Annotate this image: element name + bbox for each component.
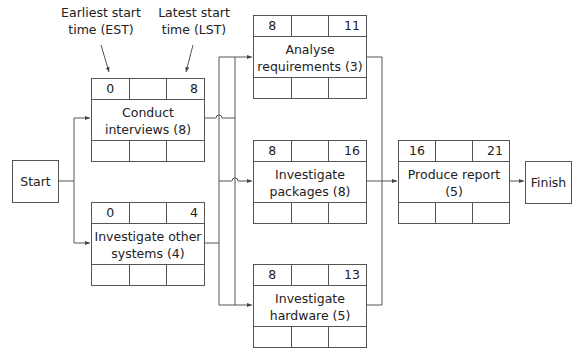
empty-cell (328, 327, 366, 347)
empty-cell (291, 203, 329, 223)
empty-cell (472, 203, 509, 223)
est-value: 0 (92, 203, 129, 223)
duration-cell (435, 141, 472, 161)
empty-cell (435, 203, 472, 223)
lst-value: 4 (166, 203, 204, 223)
activity-name: Conduct interviews (8) (92, 100, 204, 141)
empty-cell (129, 265, 167, 285)
activity-node-investigate-packages: 816 Investigate packages (8) (253, 140, 367, 224)
finish-node: Finish (525, 161, 572, 204)
lst-value: 21 (472, 141, 509, 161)
lst-pointer-arrow (186, 45, 193, 72)
lst-value: 11 (328, 16, 366, 36)
empty-cell (254, 327, 291, 347)
activity-name: Produce report (5) (399, 162, 509, 203)
duration-cell (291, 16, 329, 36)
activity-node-analyse-requirements: 811 Analyse requirements (3) (253, 15, 367, 99)
start-label: Start (20, 174, 51, 189)
est-annotation: Earliest start time (EST) (60, 4, 142, 38)
empty-cell (399, 203, 435, 223)
duration-cell (291, 265, 329, 285)
empty-cell (129, 141, 167, 161)
activity-node-produce-report: 1621 Produce report (5) (398, 140, 510, 224)
est-value: 8 (254, 265, 291, 285)
empty-cell (166, 265, 204, 285)
lst-value: 16 (328, 141, 366, 161)
empty-cell (92, 265, 129, 285)
activity-name: Analyse requirements (3) (254, 37, 366, 78)
lst-value: 13 (328, 265, 366, 285)
empty-cell (92, 141, 129, 161)
start-node: Start (12, 160, 59, 203)
empty-cell (328, 203, 366, 223)
finish-label: Finish (531, 175, 567, 190)
est-value: 0 (92, 79, 129, 99)
activity-node-investigate-hardware: 813 Investigate hardware (5) (253, 264, 367, 348)
empty-cell (291, 78, 329, 98)
est-pointer-arrow (101, 45, 109, 72)
est-value: 8 (254, 141, 291, 161)
activity-name: Investigate hardware (5) (254, 286, 366, 327)
est-value: 16 (399, 141, 435, 161)
empty-cell (254, 78, 291, 98)
activity-name: Investigate other systems (4) (92, 224, 204, 265)
lst-annotation: Latest start time (LST) (158, 4, 230, 38)
duration-cell (129, 79, 167, 99)
empty-cell (254, 203, 291, 223)
activity-node-investigate-other-systems: 04 Investigate other systems (4) (91, 202, 205, 286)
empty-cell (166, 141, 204, 161)
empty-cell (291, 327, 329, 347)
empty-cell (328, 78, 366, 98)
activity-node-conduct-interviews: 08 Conduct interviews (8) (91, 78, 205, 162)
duration-cell (129, 203, 167, 223)
duration-cell (291, 141, 329, 161)
activity-name: Investigate packages (8) (254, 162, 366, 203)
est-value: 8 (254, 16, 291, 36)
lst-value: 8 (166, 79, 204, 99)
